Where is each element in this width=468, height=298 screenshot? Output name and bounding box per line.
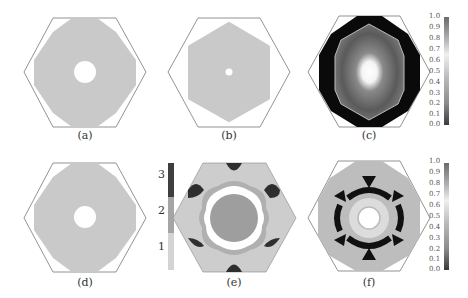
tick: 1.0 bbox=[429, 157, 440, 165]
tick: 0.0 bbox=[429, 120, 440, 128]
tick: 0.1 bbox=[429, 255, 440, 263]
tick: 0.8 bbox=[429, 34, 440, 42]
tick: 0.2 bbox=[429, 245, 440, 253]
panel-f bbox=[308, 161, 449, 271]
panel-c bbox=[308, 16, 449, 127]
tick: 0.3 bbox=[429, 234, 440, 242]
tick: 1 bbox=[158, 240, 165, 253]
tick: 0.0 bbox=[429, 265, 440, 273]
tick: 0.8 bbox=[429, 179, 440, 187]
panel-label-a: (a) bbox=[77, 129, 92, 142]
tick: 0.5 bbox=[429, 67, 440, 75]
tick: 0.6 bbox=[429, 201, 440, 209]
tick: 0.5 bbox=[429, 212, 440, 220]
tick: 0.9 bbox=[429, 23, 440, 31]
panel-label-f: (f) bbox=[363, 276, 376, 289]
tick: 0.4 bbox=[429, 78, 440, 86]
tick: 0.7 bbox=[429, 45, 440, 53]
tick: 2 bbox=[158, 204, 165, 217]
tick: 3 bbox=[158, 168, 165, 181]
tick: 0.2 bbox=[429, 99, 440, 107]
tick: 1.0 bbox=[429, 12, 440, 20]
panel-label-d: (d) bbox=[77, 276, 93, 289]
panel-label-e: (e) bbox=[226, 276, 241, 289]
panel-a bbox=[24, 18, 146, 127]
panel-label-c: (c) bbox=[362, 129, 377, 142]
tick: 0.4 bbox=[429, 223, 440, 231]
panel-label-b: (b) bbox=[221, 129, 237, 142]
tick: 0.3 bbox=[429, 89, 440, 97]
figure-canvas bbox=[0, 0, 468, 298]
tick: 0.9 bbox=[429, 168, 440, 176]
tick: 0.7 bbox=[429, 190, 440, 198]
tick: 0.6 bbox=[429, 56, 440, 64]
panel-b bbox=[168, 18, 290, 127]
panel-d bbox=[24, 163, 146, 272]
tick: 0.1 bbox=[429, 110, 440, 118]
panel-e bbox=[168, 163, 296, 272]
